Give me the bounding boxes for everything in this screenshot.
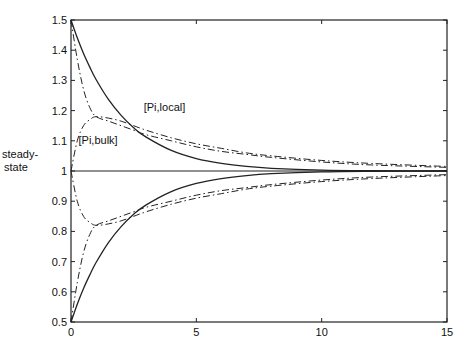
x-tick-label: 10 bbox=[316, 326, 328, 338]
y-tick-label: 1 bbox=[61, 165, 67, 177]
pi-bulk-upper-from-1-0-curve bbox=[71, 117, 447, 171]
y-tick-label: 0.9 bbox=[52, 195, 67, 207]
y-tick-label: 0.7 bbox=[52, 256, 67, 268]
x-tick-label: 15 bbox=[441, 326, 453, 338]
annotation-pi-local: [Pi,local] bbox=[144, 101, 186, 113]
y-tick-label: 1.3 bbox=[52, 74, 67, 86]
y-tick-label: 0.6 bbox=[52, 286, 67, 298]
x-tick-label: 5 bbox=[193, 326, 199, 338]
pi-bulk-lower-from-1-0-curve bbox=[71, 171, 447, 225]
curves bbox=[71, 20, 447, 322]
pi-local-lower-curve bbox=[71, 171, 447, 322]
y-tick-label: 0.5 bbox=[52, 316, 67, 328]
y-tick-label: 1.2 bbox=[52, 105, 67, 117]
pi-bulk-lower-from-0-5-curve bbox=[71, 175, 447, 322]
ylabel-line2: state bbox=[4, 161, 28, 173]
axis-labels: 0.50.60.70.80.911.11.21.31.41.5051015 bbox=[52, 14, 453, 338]
x-tick-label: 0 bbox=[68, 326, 74, 338]
y-tick-label: 1.5 bbox=[52, 14, 67, 26]
ylabel-line1: steady- bbox=[2, 148, 38, 160]
y-tick-label: 1.1 bbox=[52, 135, 67, 147]
y-tick-label: 0.8 bbox=[52, 225, 67, 237]
annotation-pi-bulk: [Pi,bulk] bbox=[79, 134, 118, 146]
chart: 0.50.60.70.80.911.11.21.31.41.5051015 [P… bbox=[0, 0, 466, 347]
pi-local-upper-curve bbox=[71, 20, 447, 171]
y-tick-label: 1.4 bbox=[52, 44, 67, 56]
pi-bulk-upper-from-1-5-curve bbox=[71, 20, 447, 167]
